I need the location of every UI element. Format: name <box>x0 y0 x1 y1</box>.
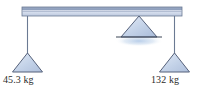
center-fulcrum-triangle <box>121 16 157 37</box>
left-mass-label: 45.3 kg <box>3 74 34 85</box>
right-weight-triangle <box>160 53 190 72</box>
right-mass-label: 132 kg <box>151 74 179 85</box>
left-weight-triangle <box>13 53 43 72</box>
lever-balance-figure: 45.3 kg 132 kg <box>0 0 201 93</box>
